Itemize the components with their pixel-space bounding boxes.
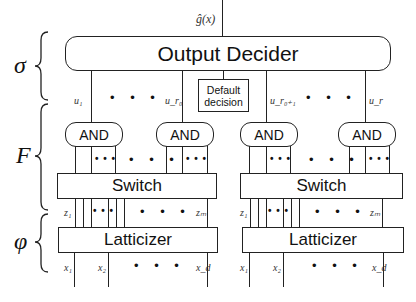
- z-line: [83, 199, 84, 228]
- output-label: ĝ(x): [196, 12, 215, 27]
- z-line: [266, 199, 267, 228]
- and-input-line: [91, 146, 92, 174]
- x2-label-left: x₂: [98, 262, 106, 273]
- zm-label-left: zₘ: [196, 207, 206, 218]
- and-input-line: [182, 146, 183, 174]
- and-input-line: [75, 146, 76, 174]
- ur0p1-label: u_r₀₊₁: [270, 95, 296, 106]
- z-line: [299, 199, 300, 228]
- z-ellipsis-wide: • • •: [140, 204, 191, 219]
- and-input-ellipsis: • • •: [270, 153, 291, 164]
- z-line: [75, 199, 76, 228]
- phi-brace: [35, 214, 48, 272]
- z-line: [91, 199, 92, 228]
- z-line: [291, 199, 292, 228]
- switch-label: Switch: [112, 176, 162, 196]
- x-line: [108, 253, 109, 287]
- and-input-line: [249, 146, 250, 174]
- f-label: F: [16, 142, 31, 169]
- latticizer-label: Latticizer: [289, 230, 357, 250]
- sigma-label: σ: [14, 52, 26, 79]
- z-ellipsis: • • •: [268, 205, 289, 216]
- ur-line: [365, 70, 366, 123]
- latticizer-box-right: Latticizer: [242, 227, 404, 253]
- u1-label: u₁: [74, 95, 82, 106]
- z-ellipsis: • • •: [93, 205, 114, 216]
- and-gates-ellipsis-right: • • •: [309, 152, 360, 167]
- x1-label-right: x₁: [240, 262, 248, 273]
- default-label-2: decision: [204, 96, 243, 108]
- and-input-line: [365, 146, 366, 174]
- and-input-ellipsis: • • •: [369, 153, 390, 164]
- output-decider-label: Output Decider: [157, 42, 298, 66]
- sigma-brace: [35, 32, 48, 100]
- and-label: AND: [352, 127, 382, 143]
- ur-label: u_r: [369, 95, 383, 106]
- latticizer-label: Latticizer: [104, 230, 172, 250]
- z1-label-left: z₁: [64, 207, 71, 218]
- x-line: [249, 253, 250, 287]
- and-label: AND: [170, 127, 200, 143]
- xd-label-left: x_d: [196, 262, 210, 273]
- z-line: [207, 199, 208, 228]
- z-line: [124, 199, 125, 228]
- and-gate-3: AND: [240, 122, 298, 147]
- xd-label-right: x_d: [372, 262, 386, 273]
- and-input-line: [207, 146, 208, 174]
- and-gates-ellipsis-left: • • •: [129, 152, 180, 167]
- and-input-line: [266, 146, 267, 174]
- zm-label-right: zₘ: [370, 207, 380, 218]
- ur0-label: u_r₀: [165, 95, 182, 106]
- latticizer-box-left: Latticizer: [58, 227, 218, 253]
- and-input-ellipsis: • • •: [95, 153, 116, 164]
- x-line: [74, 253, 75, 287]
- f-brace: [35, 104, 48, 210]
- and-label: AND: [79, 127, 109, 143]
- x1-label-left: x₁: [64, 262, 72, 273]
- default-label-1: Default: [207, 84, 240, 96]
- and-gate-2: AND: [156, 122, 214, 147]
- switch-box-left: Switch: [57, 173, 217, 199]
- output-decider-box: Output Decider: [65, 36, 391, 71]
- and-gate-4: AND: [338, 122, 396, 147]
- u1-line: [91, 70, 92, 123]
- z-line: [382, 199, 383, 228]
- ur0p1-line: [266, 70, 267, 123]
- u-ellipsis-right: • • •: [306, 90, 357, 105]
- z-line: [116, 199, 117, 228]
- x-line: [283, 253, 284, 287]
- z-line: [258, 199, 259, 228]
- switch-box-right: Switch: [240, 173, 403, 199]
- phi-label: φ: [14, 228, 27, 255]
- and-gate-1: AND: [65, 122, 123, 147]
- and-input-ellipsis: • • •: [186, 153, 207, 164]
- default-decision-box: Default decision: [198, 79, 249, 112]
- and-label: AND: [254, 127, 284, 143]
- switch-label: Switch: [296, 176, 346, 196]
- u-ellipsis-left: • • •: [110, 90, 161, 105]
- x2-label-right: x₂: [273, 262, 281, 273]
- x-ellipsis-left: • • •: [134, 258, 185, 273]
- z-line: [250, 199, 251, 228]
- z-ellipsis-wide: • • •: [315, 204, 366, 219]
- z1-label-right: z₁: [240, 207, 247, 218]
- x-ellipsis-right: • • •: [312, 258, 363, 273]
- output-line: [222, 0, 223, 37]
